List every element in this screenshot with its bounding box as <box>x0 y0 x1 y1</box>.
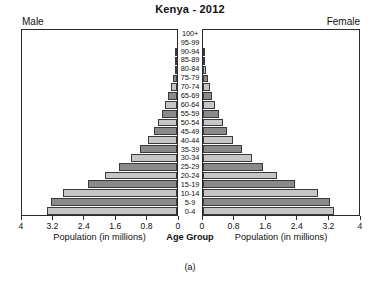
bar-row <box>203 48 359 57</box>
bar-row <box>22 145 177 154</box>
axis-tick-label: 0.8 <box>228 221 240 231</box>
male-bar <box>175 48 177 56</box>
female-bar <box>203 48 205 56</box>
bar-row <box>203 39 359 48</box>
bar-row <box>203 83 359 92</box>
axis-tick-label: 1.6 <box>109 221 121 231</box>
female-axis-caption: Population (in millions) <box>202 232 360 242</box>
bar-row <box>203 74 359 83</box>
male-bar <box>63 189 177 197</box>
bar-row <box>22 74 177 83</box>
bar-row <box>22 65 177 74</box>
age-group-label: 100+ <box>178 29 202 38</box>
female-bar <box>203 207 334 215</box>
male-bar <box>175 57 177 65</box>
bar-row <box>203 153 359 162</box>
bar-row <box>203 56 359 65</box>
female-bar <box>203 101 215 109</box>
axis-tick-label: 3.2 <box>322 221 334 231</box>
female-bar <box>203 180 295 188</box>
female-plot-panel <box>202 29 360 216</box>
axis-tick-label: 0 <box>200 221 205 231</box>
female-bar <box>203 83 210 91</box>
bar-row <box>203 197 359 206</box>
age-group-label: 90-94 <box>178 47 202 56</box>
female-bar <box>203 119 223 127</box>
axis-tick-label: 4 <box>358 221 363 231</box>
male-x-axis: 43.22.41.60.80 <box>21 216 178 230</box>
bar-row <box>203 206 359 215</box>
female-bar <box>203 154 252 162</box>
age-group-label: 20-24 <box>178 172 202 181</box>
age-group-label: 85-89 <box>178 56 202 65</box>
age-group-label: 0-4 <box>178 207 202 216</box>
female-bar <box>203 66 206 74</box>
male-side-label: Male <box>22 16 44 27</box>
age-group-label: 15-19 <box>178 180 202 189</box>
male-bar <box>51 198 177 206</box>
bar-row <box>22 39 177 48</box>
age-group-label: 45-49 <box>178 127 202 136</box>
axis-tick-label: 1.6 <box>259 221 271 231</box>
axis-tick-label: 3.2 <box>46 221 58 231</box>
bar-row <box>22 127 177 136</box>
age-group-label: 5-9 <box>178 198 202 207</box>
female-bar <box>203 145 242 153</box>
chart-title: Kenya - 2012 <box>0 3 380 15</box>
bar-row <box>22 136 177 145</box>
age-group-label: 55-59 <box>178 109 202 118</box>
age-group-label: 40-44 <box>178 136 202 145</box>
bar-row <box>22 48 177 57</box>
age-group-label: 50-54 <box>178 118 202 127</box>
bar-row <box>22 162 177 171</box>
population-pyramid-figure: Kenya - 2012 Male Female 100+95-9990-948… <box>0 0 380 288</box>
age-group-label: 10-14 <box>178 189 202 198</box>
female-bar <box>203 198 330 206</box>
bar-row <box>203 171 359 180</box>
male-bar <box>119 163 177 171</box>
bar-row <box>203 127 359 136</box>
bar-row <box>203 65 359 74</box>
figure-caption: (a) <box>0 262 380 272</box>
female-bar <box>203 127 227 135</box>
bar-row <box>22 118 177 127</box>
bar-row <box>203 118 359 127</box>
female-bar <box>203 172 277 180</box>
bar-row <box>203 92 359 101</box>
male-bar <box>175 66 177 74</box>
female-axis-tick-labels: 00.81.62.43.24 <box>202 220 360 230</box>
bar-row <box>203 109 359 118</box>
bar-row <box>22 101 177 110</box>
male-bar <box>47 207 177 215</box>
female-bar <box>203 110 219 118</box>
bar-row <box>203 180 359 189</box>
female-bar <box>203 163 263 171</box>
bar-row <box>203 30 359 39</box>
male-bar <box>131 154 178 162</box>
female-bar <box>203 136 233 144</box>
age-group-label: 70-74 <box>178 82 202 91</box>
bar-row <box>22 83 177 92</box>
male-bar <box>162 110 177 118</box>
age-group-label: 60-64 <box>178 100 202 109</box>
male-bar <box>105 172 177 180</box>
male-bar <box>148 136 177 144</box>
age-group-label: 30-34 <box>178 154 202 163</box>
male-bar <box>154 127 177 135</box>
bar-row <box>203 189 359 198</box>
bar-row <box>203 162 359 171</box>
age-group-label: 65-69 <box>178 91 202 100</box>
bar-row <box>22 109 177 118</box>
male-bar <box>88 180 177 188</box>
age-group-label: 25-29 <box>178 163 202 172</box>
male-axis-tick-labels: 43.22.41.60.80 <box>21 220 178 230</box>
male-bar <box>168 92 177 100</box>
bar-row <box>203 136 359 145</box>
male-bar <box>140 145 177 153</box>
male-bar <box>158 119 177 127</box>
male-bar <box>171 83 177 91</box>
age-group-labels-column: 100+95-9990-9485-8980-8475-7970-7465-696… <box>178 29 202 216</box>
male-bar <box>165 101 177 109</box>
axis-tick-label: 4 <box>19 221 24 231</box>
bar-row <box>22 171 177 180</box>
